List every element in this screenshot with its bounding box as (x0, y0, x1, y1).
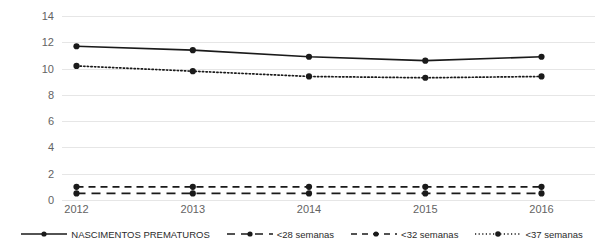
gridline-14 (62, 16, 595, 17)
gridline-2 (62, 174, 595, 175)
line-chart: 14 12 10 8 6 4 2 0 2012 2013 2014 2015 2… (0, 0, 604, 245)
x-tick-label-2012: 2012 (64, 203, 88, 215)
legend-item-nascimentos-prematuros[interactable]: NASCIMENTOS PREMATUROS (21, 229, 209, 240)
legend-item-28-semanas[interactable]: <28 semanas (227, 229, 334, 240)
legend-label-37-semanas: <37 semanas (525, 229, 582, 240)
x-tick-label-2014: 2014 (297, 203, 321, 215)
x-tick-label-2013: 2013 (181, 203, 205, 215)
plot-area (62, 16, 595, 200)
y-tick-label-8: 8 (48, 89, 54, 101)
legend-label-28-semanas: <28 semanas (277, 229, 334, 240)
gridline-8 (62, 95, 595, 96)
legend-label-32-semanas: <32 semanas (401, 229, 458, 240)
legend-swatch-dotted-icon (475, 229, 521, 239)
legend-swatch-solid-icon (21, 229, 67, 239)
legend-item-37-semanas[interactable]: <37 semanas (475, 229, 582, 240)
y-tick-label-12: 12 (42, 36, 54, 48)
y-tick-label-10: 10 (42, 63, 54, 75)
x-axis: 2012 2013 2014 2015 2016 (62, 203, 595, 219)
legend-item-32-semanas[interactable]: <32 semanas (351, 229, 458, 240)
legend-swatch-dashed-icon (351, 229, 397, 239)
gridline-12 (62, 42, 595, 43)
y-tick-label-14: 14 (42, 10, 54, 22)
legend-swatch-dash-dot-icon (227, 229, 273, 239)
chart-legend: NASCIMENTOS PREMATUROS <28 semanas <32 s… (0, 225, 604, 243)
gridline-10 (62, 69, 595, 70)
gridline-6 (62, 121, 595, 122)
gridline-0 (62, 200, 595, 201)
y-axis: 14 12 10 8 6 4 2 0 (0, 16, 54, 200)
y-tick-label-4: 4 (48, 141, 54, 153)
x-tick-label-2016: 2016 (529, 203, 553, 215)
x-tick-label-2015: 2015 (413, 203, 437, 215)
y-tick-label-0: 0 (48, 194, 54, 206)
y-tick-label-6: 6 (48, 115, 54, 127)
legend-label-nascimentos-prematuros: NASCIMENTOS PREMATUROS (71, 229, 209, 240)
gridline-4 (62, 147, 595, 148)
y-tick-label-2: 2 (48, 168, 54, 180)
